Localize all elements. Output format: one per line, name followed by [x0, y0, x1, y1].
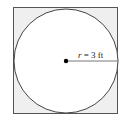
center-point — [64, 59, 68, 63]
diagram: r = 3 ft — [0, 0, 120, 126]
radius-label: r = 3 ft — [78, 50, 104, 60]
